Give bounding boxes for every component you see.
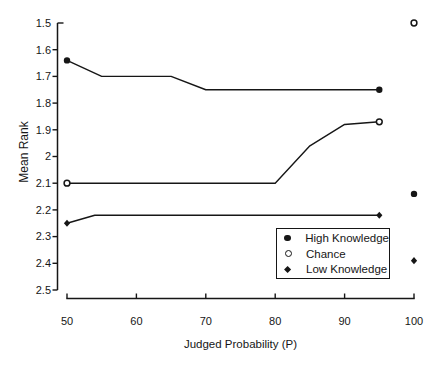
filled-circle-marker [411,191,417,197]
filled-diamond-marker [411,257,417,264]
legend-item-high-knowledge: High Knowledge [284,231,389,245]
legend-label: Chance [306,248,346,260]
filled-diamond-marker [376,212,382,219]
y-tick-label: 2.5 [36,284,51,296]
y-tick-label: 1.6 [36,44,51,56]
series-line-chance [67,122,379,183]
x-tick-label: 60 [130,315,142,327]
filled-diamond-icon [284,266,291,273]
x-tick-label: 100 [405,315,423,327]
x-tick-label: 70 [200,315,212,327]
series-line-low-knowledge [67,215,379,223]
legend-item-chance: Chance [284,247,389,261]
open-circle-marker [411,20,417,26]
legend-label: Low Knowledge [306,263,387,275]
y-tick-label: 2.1 [36,177,51,189]
y-tick-label: 1.8 [36,97,51,109]
y-tick-label: 1.9 [36,124,51,136]
filled-circle-marker [376,87,382,93]
legend-item-low-knowledge: Low Knowledge [284,262,389,276]
filled-circle-marker [64,57,70,63]
open-circle-icon [285,250,292,257]
y-tick-label: 2.3 [36,230,51,242]
y-tick-label: 2.4 [36,257,51,269]
x-tick-label: 50 [61,315,73,327]
open-circle-marker [376,119,382,125]
y-tick-label: 1.5 [36,17,51,29]
series-line-high-knowledge [67,60,379,89]
y-axis-title: Mean Rank [17,116,31,188]
y-tick-label: 1.7 [36,70,51,82]
open-circle-marker [64,180,70,186]
x-tick-label: 80 [269,315,281,327]
y-tick-label: 2.2 [36,204,51,216]
x-axis-title: Judged Probability (P) [67,338,414,350]
x-tick-label: 90 [338,315,350,327]
filled-circle-icon [284,235,291,242]
filled-diamond-marker [64,220,70,227]
figure: 1.51.61.71.81.922.12.22.32.42.5506070809… [0,0,442,373]
chart-canvas: 1.51.61.71.81.922.12.22.32.42.5506070809… [0,0,442,373]
y-tick-label: 2 [45,150,51,162]
legend-label: High Knowledge [305,232,389,244]
legend: High Knowledge Chance Low Knowledge [276,228,390,279]
